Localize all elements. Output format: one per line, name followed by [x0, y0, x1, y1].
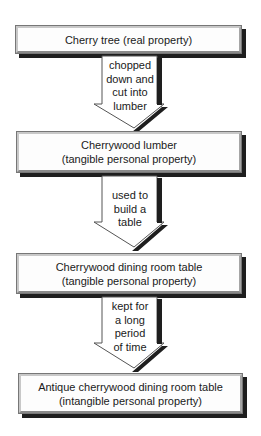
box-label: Cherrywood dining room table — [17, 260, 241, 274]
box-cherry-tree: Cherry tree (real property) — [15, 25, 242, 54]
box-antique-table: Antique cherrywood dining room table (in… — [18, 373, 243, 414]
arrow-label-1: chopped down and cut into lumber — [102, 59, 158, 113]
box-label: Antique cherrywood dining room table — [19, 380, 242, 394]
box-sublabel: (intangible personal property) — [19, 394, 242, 408]
box-dining-table: Cherrywood dining room table (tangible p… — [16, 253, 242, 294]
arrow-label-line: of time — [102, 341, 158, 355]
box-label: Cherry tree (real property) — [16, 33, 241, 47]
arrow-label-3: kept for a long period of time — [102, 300, 158, 354]
arrow-label-line: used to — [102, 189, 158, 203]
arrow-label-line: lumber — [102, 100, 158, 114]
box-sublabel: (tangible personal property) — [17, 274, 241, 288]
arrow-label-line: period — [102, 327, 158, 341]
box-label: Cherrywood lumber — [17, 138, 241, 152]
arrow-label-line: build a — [102, 203, 158, 217]
box-sublabel: (tangible personal property) — [17, 152, 241, 166]
arrow-label-line: chopped — [102, 59, 158, 73]
box-cherrywood-lumber: Cherrywood lumber (tangible personal pro… — [16, 131, 242, 173]
arrow-label-line: a long — [102, 314, 158, 328]
arrow-label-2: used to build a table — [102, 189, 158, 230]
arrow-label-line: table — [102, 216, 158, 230]
arrow-label-line: cut into — [102, 86, 158, 100]
arrow-label-line: down and — [102, 73, 158, 87]
arrow-label-line: kept for — [102, 300, 158, 314]
